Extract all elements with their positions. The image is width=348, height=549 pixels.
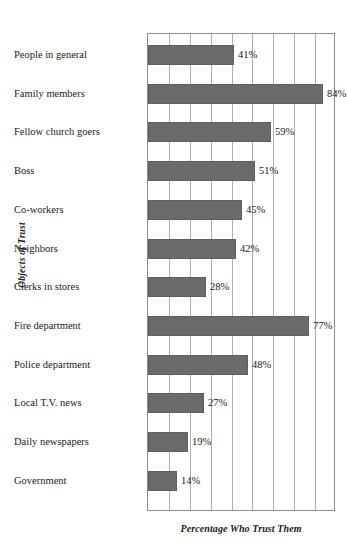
bar-row: Fellow church goers59% <box>0 120 348 144</box>
bar-value-label: 27% <box>204 391 227 415</box>
bar-row: Family members84% <box>0 82 348 106</box>
bar <box>148 122 271 142</box>
bar-chart: Objects of Trust People in general41%Fam… <box>0 0 348 549</box>
bar-rows: People in general41%Family members84%Fel… <box>0 0 348 549</box>
bar-value-label: 51% <box>255 159 278 183</box>
category-label: Police department <box>14 353 140 377</box>
bar-value-label: 19% <box>188 430 211 454</box>
bar-value-label: 41% <box>234 43 257 67</box>
bar-row: Police department48% <box>0 353 348 377</box>
bar-value-label: 77% <box>309 314 332 338</box>
category-label: Co-workers <box>14 198 140 222</box>
bar <box>148 393 204 413</box>
bar-value-label: 84% <box>323 82 346 106</box>
bar-row: People in general41% <box>0 43 348 67</box>
x-axis-title: Percentage Who Trust Them <box>147 523 335 534</box>
bar-row: Co-workers45% <box>0 198 348 222</box>
category-label: People in general <box>14 43 140 67</box>
category-label: Fire department <box>14 314 140 338</box>
bar-row: Government14% <box>0 469 348 493</box>
category-label: Neighbors <box>14 237 140 261</box>
bar <box>148 277 206 297</box>
category-label: Local T.V. news <box>14 391 140 415</box>
category-label: Boss <box>14 159 140 183</box>
bar-row: Neighbors42% <box>0 237 348 261</box>
bar-value-label: 42% <box>236 237 259 261</box>
bar-row: Daily newspapers19% <box>0 430 348 454</box>
bar <box>148 355 248 375</box>
bar <box>148 316 309 336</box>
bar-value-label: 48% <box>248 353 271 377</box>
bar-row: Boss51% <box>0 159 348 183</box>
bar <box>148 84 323 104</box>
bar <box>148 471 177 491</box>
bar-value-label: 28% <box>206 275 229 299</box>
bar-value-label: 45% <box>242 198 265 222</box>
category-label: Clerks in stores <box>14 275 140 299</box>
bar <box>148 432 188 452</box>
bar-row: Clerks in stores28% <box>0 275 348 299</box>
bar <box>148 239 236 259</box>
bar <box>148 161 255 181</box>
category-label: Fellow church goers <box>14 120 140 144</box>
category-label: Daily newspapers <box>14 430 140 454</box>
bar <box>148 200 242 220</box>
category-label: Family members <box>14 82 140 106</box>
bar-row: Fire department77% <box>0 314 348 338</box>
bar <box>148 45 234 65</box>
category-label: Government <box>14 469 140 493</box>
bar-row: Local T.V. news27% <box>0 391 348 415</box>
bar-value-label: 59% <box>271 120 294 144</box>
bar-value-label: 14% <box>177 469 200 493</box>
